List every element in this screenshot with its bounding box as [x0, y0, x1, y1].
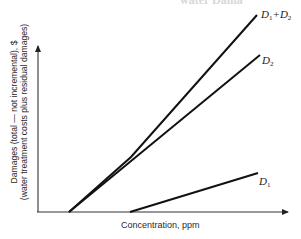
y-axis-label-line-1: Damages (total — not incremental), $ — [9, 22, 19, 202]
damages-chart: water Dama Damages (total — not incremen… — [0, 0, 301, 239]
cropped-heading-fragment: water Dama — [180, 0, 243, 8]
y-axis-label: Damages (total — not incremental), $ (wa… — [9, 22, 29, 202]
series-label-d1-plus-d2: D1+D2 — [261, 8, 291, 22]
x-axis-label: Concentration, ppm — [121, 220, 200, 230]
series-line-d2 — [69, 55, 260, 212]
series-label-d2: D2 — [262, 54, 273, 68]
series-line-d1 — [130, 173, 258, 212]
chart-canvas — [0, 0, 301, 239]
series-label-d1: D1 — [259, 175, 270, 189]
y-axis-label-line-2: (water treatment costs plus residual dam… — [19, 22, 29, 202]
